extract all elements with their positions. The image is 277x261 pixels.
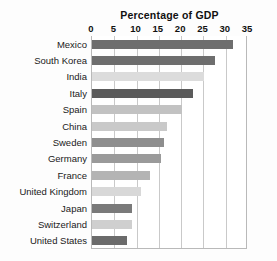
bar [92,56,215,65]
category-label: Japan [0,203,87,214]
category-label: Germany [0,153,87,164]
category-label: Spain [0,104,87,115]
x-tick-label: 30 [219,23,230,34]
x-tick-label: 35 [242,23,253,34]
bar [92,89,193,98]
bar [92,204,132,213]
bar [92,40,233,49]
bars-layer [92,36,246,248]
bar [92,171,150,180]
category-label: United Kingdom [0,186,87,197]
y-axis-category-labels: MexicoSouth KoreaIndiaItalySpainChinaSwe… [0,36,87,249]
bar [92,220,132,229]
x-tick-label: 5 [111,23,116,34]
x-axis-tick-labels: 05101520253035 [0,23,277,36]
bar [92,138,164,147]
bar [92,187,141,196]
bar [92,122,167,131]
x-tick-label: 10 [130,23,141,34]
bar [92,154,161,163]
category-label: South Korea [0,55,87,66]
category-label: Mexico [0,39,87,50]
x-tick-label: 20 [175,23,186,34]
category-label: United States [0,235,87,246]
x-tick-label: 25 [197,23,208,34]
category-label: Italy [0,88,87,99]
plot-area [91,36,247,249]
x-tick-label: 15 [153,23,164,34]
bar-chart: Percentage of GDP 05101520253035 MexicoS… [0,0,277,261]
bar [92,72,204,81]
bar [92,236,127,245]
category-label: Switzerland [0,219,87,230]
chart-title: Percentage of GDP [91,9,248,21]
category-label: France [0,170,87,181]
category-label: Sweden [0,137,87,148]
category-label: China [0,121,87,132]
x-tick-label: 0 [88,23,93,34]
bar [92,105,182,114]
category-label: India [0,71,87,82]
